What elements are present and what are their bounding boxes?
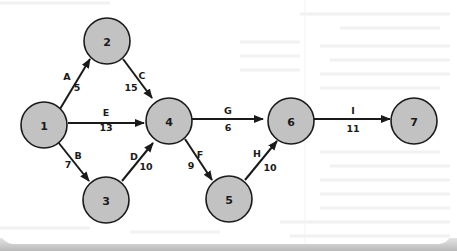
- edge-f-activity: F: [197, 149, 204, 160]
- edge-c-duration: 15: [124, 82, 137, 93]
- node-3-label: 3: [102, 195, 110, 208]
- edge-b-activity: B: [74, 150, 81, 161]
- node-3: 3: [83, 177, 129, 223]
- edge-d-duration: 10: [139, 161, 153, 172]
- node-7: 7: [391, 98, 437, 144]
- node-4: 4: [146, 98, 192, 144]
- edge-e: E 13: [68, 107, 144, 133]
- edge-a-duration: 5: [74, 82, 81, 93]
- node-4-label: 4: [165, 116, 173, 129]
- node-6-label: 6: [287, 116, 295, 129]
- edge-b-duration: 7: [65, 159, 72, 170]
- edge-h-activity: H: [253, 148, 261, 159]
- node-1-label: 1: [40, 120, 48, 133]
- edge-d: D 10: [122, 143, 153, 181]
- edge-f: F 9: [185, 139, 212, 180]
- edge-c: C 15: [123, 59, 152, 98]
- edge-h: H 10: [245, 141, 277, 180]
- node-2: 2: [84, 18, 130, 64]
- node-5-label: 5: [225, 194, 233, 207]
- edge-i: I 11: [314, 105, 390, 134]
- edge-a: A 5: [60, 59, 90, 109]
- edge-d-activity: D: [130, 151, 138, 162]
- edge-f-duration: 9: [188, 160, 195, 171]
- node-6: 6: [268, 98, 314, 144]
- edge-a-activity: A: [63, 71, 71, 82]
- edge-h-duration: 10: [263, 162, 277, 173]
- edge-i-duration: 11: [346, 123, 359, 134]
- edge-g: G 6: [192, 105, 263, 133]
- edge-g-activity: G: [224, 105, 232, 116]
- network-diagram: A 5 B 7 C 15 D 10 E 13 F 9 G 6 H 10 I: [0, 0, 457, 251]
- node-1: 1: [21, 102, 67, 148]
- node-7-label: 7: [410, 116, 418, 129]
- edge-e-duration: 13: [99, 122, 112, 133]
- node-2-label: 2: [103, 36, 111, 49]
- edge-c-activity: C: [139, 70, 146, 81]
- edge-i-activity: I: [351, 105, 355, 116]
- edge-b: B 7: [58, 142, 89, 181]
- node-5: 5: [206, 176, 252, 222]
- edge-g-duration: 6: [225, 122, 232, 133]
- edge-e-activity: E: [103, 107, 110, 118]
